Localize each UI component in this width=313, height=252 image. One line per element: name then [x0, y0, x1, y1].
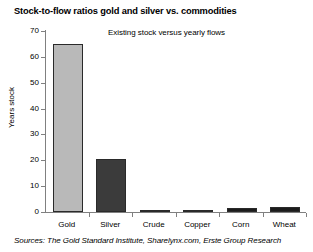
y-axis-tick-label: 0: [8, 208, 39, 216]
y-axis-title: Years stock: [7, 63, 16, 153]
bar-corn: [227, 208, 257, 212]
y-axis-tick-label: 10: [8, 182, 39, 190]
chart-title: Stock-to-flow ratios gold and silver vs.…: [14, 6, 304, 17]
y-axis-tick-label-text: 20: [8, 156, 39, 164]
bar-silver: [96, 159, 126, 212]
bar-crude: [140, 210, 170, 212]
x-axis-label-silver: Silver: [89, 220, 133, 229]
y-axis-tick-label: 70: [8, 27, 39, 35]
bar-gold: [53, 44, 83, 212]
y-axis-tick: [41, 134, 45, 135]
x-axis-label-copper: Copper: [176, 220, 220, 229]
x-axis-tick: [306, 213, 307, 217]
y-axis-tick: [41, 57, 45, 58]
x-axis-label-wheat: Wheat: [263, 220, 307, 229]
x-axis-tick: [132, 213, 133, 217]
bar-copper: [183, 210, 213, 212]
y-axis-tick-label-text: 0: [8, 208, 39, 216]
y-axis-tick: [41, 109, 45, 110]
y-axis-tick: [41, 31, 45, 32]
bar-wheat: [270, 207, 300, 212]
y-axis-tick-label-text: 10: [8, 182, 39, 190]
x-axis-label-crude: Crude: [132, 220, 176, 229]
x-axis-tick: [89, 213, 90, 217]
y-axis-tick-label-text: 70: [8, 27, 39, 35]
y-axis-tick: [41, 83, 45, 84]
y-axis-tick-label: 20: [8, 156, 39, 164]
y-axis-tick: [41, 160, 45, 161]
x-axis-label-gold: Gold: [45, 220, 89, 229]
y-axis-tick-label-text: 60: [8, 53, 39, 61]
plot-area: [46, 31, 306, 212]
x-axis-label-corn: Corn: [219, 220, 263, 229]
source-note: Sources: The Gold Standard Institute, Sh…: [14, 236, 281, 245]
x-axis-tick: [263, 213, 264, 217]
x-axis-tick: [219, 213, 220, 217]
stock-to-flow-bar-chart: Stock-to-flow ratios gold and silver vs.…: [0, 0, 313, 252]
y-axis-tick: [41, 212, 45, 213]
x-axis-tick: [176, 213, 177, 217]
y-axis-tick-label: 60: [8, 53, 39, 61]
y-axis-tick: [41, 186, 45, 187]
